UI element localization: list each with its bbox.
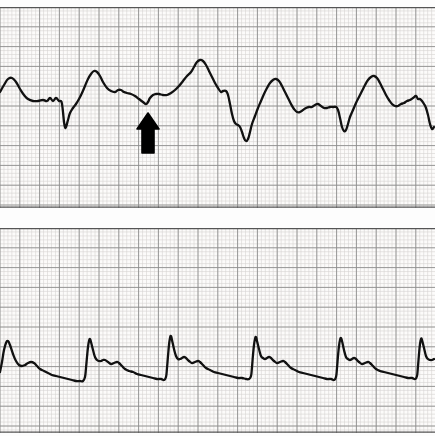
- waveform-strip-figure: [0, 0, 435, 436]
- ecg-rhythm-strip-panel: [0, 7, 435, 208]
- arterial-pressure-strip-panel: [0, 228, 435, 433]
